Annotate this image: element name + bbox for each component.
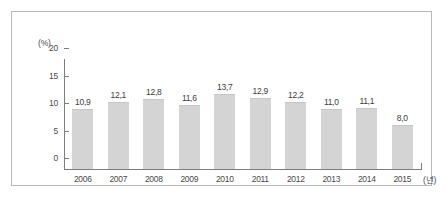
x-axis-category-label: 2014 [349, 174, 385, 184]
x-axis-category-label: 2007 [101, 174, 137, 184]
x-axis-category-label: 2006 [65, 174, 101, 184]
y-axis-tick-label: 10 [36, 98, 58, 108]
y-axis-tick-label: 20 [36, 43, 58, 53]
x-axis-category-labels: 2006200720082009201020112012201320142015 [65, 12, 422, 201]
figure-frame: (%) (년) 05101520 10,912,112,811,613,712,… [11, 11, 432, 186]
x-axis-category-label: 2013 [314, 174, 350, 184]
chart-figure: (%) (년) 05101520 10,912,112,811,613,712,… [0, 0, 446, 201]
x-axis-category-label: 2009 [172, 174, 208, 184]
y-axis-tick-label: 5 [36, 126, 58, 136]
x-axis-category-label: 2010 [207, 174, 243, 184]
x-axis-unit-label: (년) [423, 173, 436, 185]
x-axis-category-label: 2008 [136, 174, 172, 184]
x-axis-category-label: 2015 [385, 174, 421, 184]
x-axis-category-label: 2011 [243, 174, 279, 184]
x-axis-category-label: 2012 [278, 174, 314, 184]
y-axis-tick-label: 0 [36, 153, 58, 163]
y-axis-tick-label: 15 [36, 71, 58, 81]
